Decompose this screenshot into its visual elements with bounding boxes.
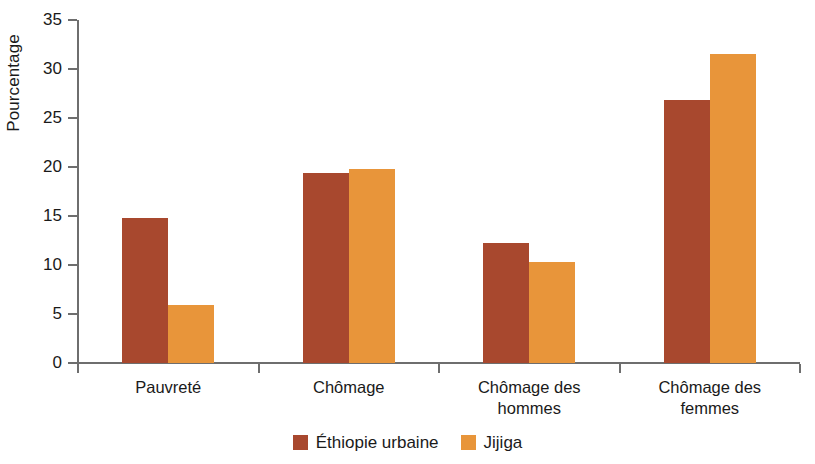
bar-jijiga: [710, 54, 756, 363]
y-axis-tick-label: 35: [30, 11, 62, 28]
category-label-line: Pauvreté: [73, 377, 263, 398]
y-axis-tick-label: 0: [30, 354, 62, 371]
y-axis-tick: [68, 68, 77, 70]
x-axis-category-label: Chômage: [254, 377, 444, 398]
x-axis-tick: [438, 364, 440, 373]
x-axis-tick: [799, 364, 801, 373]
category-label-line: Chômage des: [615, 377, 805, 398]
x-axis-category-label: Chômage deshommes: [434, 377, 624, 419]
bar-jijiga: [168, 305, 214, 363]
y-axis-tick: [68, 362, 77, 364]
category-label-line: Chômage des: [434, 377, 624, 398]
y-axis-tick-label: 25: [30, 109, 62, 126]
bar-ethiopie-urbaine: [483, 243, 529, 363]
y-axis-tick: [68, 19, 77, 21]
y-axis-tick-label: 5: [30, 305, 62, 322]
y-axis-tick: [68, 166, 77, 168]
bar-ethiopie-urbaine: [122, 218, 168, 363]
y-axis-tick: [68, 313, 77, 315]
bar-chart: Pourcentage 05101520253035 PauvretéChôma…: [0, 0, 815, 464]
bar-jijiga: [349, 169, 395, 363]
x-axis-category-label: Pauvreté: [73, 377, 263, 398]
bar-ethiopie-urbaine: [664, 100, 710, 363]
y-axis-tick-label: 20: [30, 158, 62, 175]
legend-label: Éthiopie urbaine: [316, 434, 439, 451]
x-axis-tick: [619, 364, 621, 373]
y-axis-title: Pourcentage: [0, 18, 28, 148]
x-axis-tick: [258, 364, 260, 373]
legend-item: Éthiopie urbaine: [293, 434, 439, 451]
y-axis-tick: [68, 215, 77, 217]
bar-jijiga: [529, 262, 575, 363]
y-axis-tick-label: 15: [30, 207, 62, 224]
y-axis-tick: [68, 264, 77, 266]
y-axis-tick-label: 10: [30, 256, 62, 273]
plot-area: [78, 20, 800, 363]
x-axis-tick: [77, 364, 79, 373]
legend-item: Jijiga: [461, 434, 523, 451]
category-label-line: Chômage: [254, 377, 444, 398]
y-axis-tick-label: 30: [30, 60, 62, 77]
y-axis-tick: [68, 117, 77, 119]
category-label-line: hommes: [434, 398, 624, 419]
x-axis-category-label: Chômage desfemmes: [615, 377, 805, 419]
legend-swatch-icon: [461, 435, 476, 450]
legend-swatch-icon: [293, 435, 308, 450]
legend-label: Jijiga: [484, 434, 523, 451]
category-label-line: femmes: [615, 398, 805, 419]
bar-ethiopie-urbaine: [303, 173, 349, 363]
chart-legend: Éthiopie urbaineJijiga: [0, 434, 815, 451]
